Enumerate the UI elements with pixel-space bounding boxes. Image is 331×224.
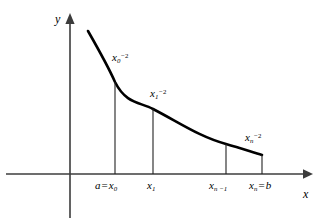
y-axis-arrowhead	[65, 13, 74, 24]
ordinate-label-xn: xn−2	[245, 132, 261, 145]
x-axis-label: x	[303, 188, 308, 200]
decay-curve	[88, 31, 262, 155]
figure-container: y x x0−2 x1−2 xn−2 a=x0 x1 xn −1 xn=b	[0, 0, 331, 224]
tick-label-xn-1: xn −1	[209, 180, 227, 193]
ordinate-label-x1: x1−2	[150, 88, 166, 101]
graph-canvas	[0, 0, 331, 224]
tick-label-x1: x1	[147, 180, 155, 193]
tick-label-xn-b: xn=b	[249, 180, 271, 193]
y-axis-label: y	[55, 13, 60, 25]
x-axis-arrowhead	[303, 169, 313, 179]
tick-label-a-x0: a=x0	[95, 180, 117, 193]
ordinate-label-x0: x0−2	[112, 52, 128, 65]
